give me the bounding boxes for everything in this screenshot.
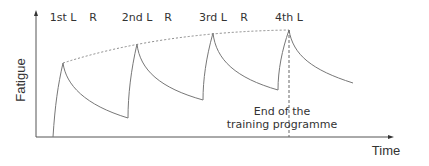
x-axis-arrow-icon	[388, 135, 394, 139]
phase-label-3rd-load: 3rd L	[199, 11, 228, 24]
y-axis-arrow-icon	[34, 10, 38, 16]
x-axis-label: Time	[372, 143, 400, 158]
y-axis-label: Fatigue	[13, 58, 28, 101]
phase-label-rest-1: R	[89, 11, 97, 24]
fatigue-diagram: 1st L R 2nd L R 3rd L R 4th L End of the…	[0, 0, 429, 166]
phase-label-1st-load: 1st L	[50, 11, 78, 24]
peak-envelope-dashed	[63, 30, 289, 63]
phase-label-2nd-load: 2nd L	[122, 11, 153, 24]
annotation-line-1: End of the	[254, 105, 311, 118]
phase-label-rest-3: R	[240, 11, 248, 24]
phase-label-4th-load: 4th L	[275, 11, 304, 24]
phase-label-rest-2: R	[164, 11, 172, 24]
annotation-line-2: training programme	[227, 118, 338, 131]
